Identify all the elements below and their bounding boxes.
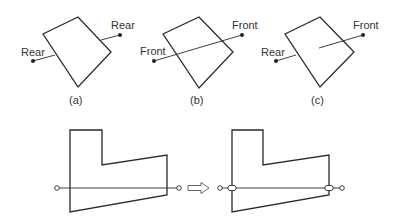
point-right — [118, 33, 122, 37]
panel-c: Rear Front (c) — [261, 17, 379, 106]
diagram-canvas: Rear Rear (a) Front Front (b) Rear Front… — [0, 0, 394, 222]
quad-shape — [43, 17, 111, 87]
point-right — [361, 33, 365, 37]
caption-c: (c) — [311, 94, 324, 106]
point-left — [274, 59, 278, 63]
label-right: Front — [353, 19, 379, 31]
label-right: Rear — [111, 19, 135, 31]
label-left: Front — [140, 45, 166, 57]
l-polygon — [232, 130, 329, 212]
ray-right — [319, 35, 363, 48]
l-shape-before — [55, 130, 182, 212]
point-left — [152, 59, 156, 63]
endpoint-right — [177, 186, 182, 191]
point-left — [31, 59, 35, 63]
arrow-icon — [188, 183, 209, 194]
endpoint-left — [55, 186, 60, 191]
ray-right — [101, 35, 120, 40]
label-left: Rear — [21, 46, 45, 58]
endpoint-right — [340, 186, 345, 191]
l-polygon — [70, 130, 167, 212]
intersection-marker-left — [228, 186, 236, 191]
caption-b: (b) — [190, 94, 203, 106]
panel-a: Rear Rear (a) — [21, 17, 135, 106]
caption-a: (a) — [69, 94, 82, 106]
label-right: Front — [232, 19, 258, 31]
quad-shape — [285, 17, 354, 87]
panel-b: Front Front (b) — [140, 17, 258, 106]
label-left: Rear — [261, 46, 285, 58]
point-right — [240, 33, 244, 37]
quad-shape — [163, 17, 233, 88]
intersection-marker-right — [325, 186, 333, 191]
l-shape-after — [218, 130, 345, 212]
endpoint-left — [218, 186, 223, 191]
